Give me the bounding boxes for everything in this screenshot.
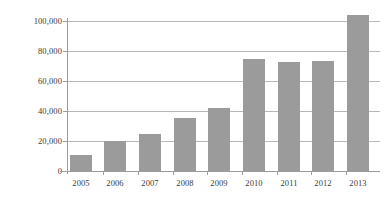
x-axis-tick-mark — [311, 171, 312, 175]
bar-2006 — [104, 141, 126, 171]
bar-2013 — [347, 15, 369, 171]
bars-layer — [68, 21, 380, 171]
y-axis-tick-label: 0 — [6, 167, 62, 176]
y-axis-tick-label: 20,000 — [6, 137, 62, 146]
y-axis-labels: 100,000 80,000 60,000 40,000 20,000 0 — [0, 0, 62, 204]
bar-2012 — [312, 61, 334, 171]
y-axis-tick-label: 80,000 — [6, 47, 62, 56]
bar-2008 — [174, 118, 196, 171]
bar-2007 — [139, 134, 161, 172]
y-axis-tick-label: 100,000 — [6, 17, 62, 26]
bar-2009 — [208, 108, 230, 171]
x-axis-tick-mark — [173, 171, 174, 175]
x-axis-tick-mark — [277, 171, 278, 175]
x-axis-tick-mark — [207, 171, 208, 175]
x-axis-label-2007: 2007 — [130, 178, 170, 188]
x-axis-tick-mark — [242, 171, 243, 175]
x-axis-tick-mark — [103, 171, 104, 175]
bar-2011 — [278, 62, 300, 172]
x-axis-tick-mark — [346, 171, 347, 175]
x-axis-label-2010: 2010 — [234, 178, 274, 188]
y-axis-line — [67, 18, 68, 174]
x-axis-label-2006: 2006 — [95, 178, 135, 188]
bar-2005 — [70, 155, 92, 172]
x-axis-label-2009: 2009 — [199, 178, 239, 188]
bar-chart: 100,000 80,000 60,000 40,000 20,000 0 — [0, 0, 386, 204]
x-axis-label-2012: 2012 — [303, 178, 343, 188]
x-axis-label-2013: 2013 — [338, 178, 378, 188]
y-axis-tick-label: 40,000 — [6, 107, 62, 116]
bar-2010 — [243, 59, 265, 172]
x-axis-line — [60, 171, 380, 172]
x-axis-tick-mark — [138, 171, 139, 175]
y-axis-tick-label: 60,000 — [6, 77, 62, 86]
